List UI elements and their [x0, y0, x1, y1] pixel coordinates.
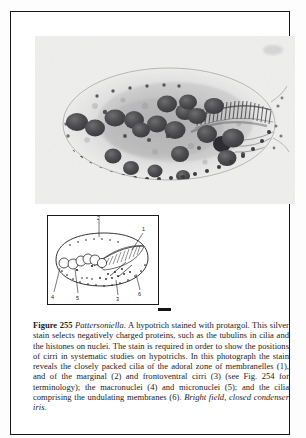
plate-artifact	[263, 45, 283, 55]
diagram-inset-box: 2 1 4 5 3 6	[47, 215, 159, 305]
diagram-content: 2 1 4 5 3 6	[48, 216, 157, 303]
micrograph-photo	[35, 36, 295, 204]
diagram-label-5: 5	[76, 295, 79, 301]
plate-frame: 2 1 4 5 3 6 Figure 255 Pattersoniella. A…	[10, 11, 290, 435]
diagram-label-3: 3	[116, 296, 119, 302]
organism-name: Pattersoniella	[75, 320, 124, 330]
micrograph-content	[35, 36, 295, 204]
figure-number: Figure 255	[33, 320, 73, 330]
scale-bar	[158, 308, 171, 311]
caption-body: . A hypotrich stained with protargol. Th…	[33, 320, 289, 402]
diagram-label-6: 6	[138, 291, 141, 297]
figure-plate-page: 2 1 4 5 3 6 Figure 255 Pattersoniella. A…	[0, 0, 306, 438]
diagram-label-1: 1	[142, 226, 145, 232]
diagram-label-4: 4	[51, 294, 54, 300]
figure-caption: Figure 255 Pattersoniella. A hypotrich s…	[33, 320, 289, 413]
diagram-label-2: 2	[97, 216, 100, 221]
